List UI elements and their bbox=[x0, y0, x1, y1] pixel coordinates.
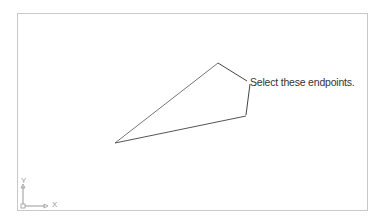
line-right[interactable] bbox=[246, 84, 250, 115]
ucs-y-label: Y bbox=[21, 176, 26, 185]
ucs-x-label: X bbox=[52, 200, 57, 209]
drawing-canvas[interactable] bbox=[0, 0, 387, 222]
ucs-icon bbox=[21, 184, 48, 208]
line-top[interactable] bbox=[218, 63, 247, 81]
callout-label: Select these endpoints. bbox=[250, 76, 355, 88]
line-bottom[interactable] bbox=[115, 116, 246, 143]
line-left[interactable] bbox=[115, 63, 218, 143]
